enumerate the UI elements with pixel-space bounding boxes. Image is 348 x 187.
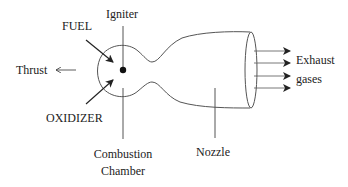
oxidizer-label: OXIDIZER: [46, 112, 103, 125]
engine-outline-upper: [98, 45, 251, 108]
nozzle-label: Nozzle: [196, 146, 230, 159]
fuel-label: FUEL: [62, 20, 92, 33]
exhaust-label-line2: gases: [296, 73, 322, 86]
igniter-dot: [120, 67, 126, 73]
nozzle-exit-ellipse: [245, 32, 257, 108]
exhaust-label-line1: Exhaust: [296, 54, 335, 67]
rocket-engine-diagram: [0, 0, 348, 187]
oxidizer-arrow: [86, 80, 113, 104]
combustion-chamber-label: Combustion Chamber: [90, 148, 156, 178]
igniter-label: Igniter: [106, 8, 138, 21]
combustion-chamber-label-line2: Chamber: [90, 165, 156, 178]
combustion-chamber-label-line1: Combustion: [90, 148, 156, 161]
engine-outline-top: [138, 32, 250, 62]
thrust-label: Thrust: [16, 64, 47, 77]
